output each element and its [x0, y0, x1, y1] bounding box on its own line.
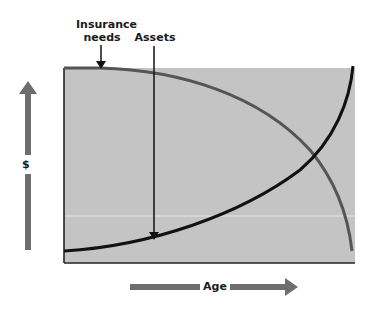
y-axis-label: $ — [21, 155, 31, 174]
up-arrow-icon — [19, 81, 37, 94]
insurance-needs-label-line2: needs — [76, 31, 128, 44]
insurance-needs-label-line1: Insurance — [76, 18, 128, 31]
x-axis-label: Age — [200, 280, 230, 293]
assets-label: Assets — [134, 31, 176, 44]
chart-canvas — [0, 0, 379, 310]
insurance-needs-label: Insurance needs — [76, 18, 128, 44]
plot-area — [64, 68, 355, 263]
right-arrow-icon — [285, 278, 298, 296]
